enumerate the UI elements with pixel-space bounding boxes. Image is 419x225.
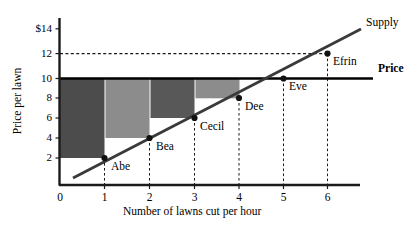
y-tick-label-6: 6: [18, 111, 52, 123]
point-label-eve: Eve: [289, 80, 307, 92]
x-tick-label-1: 1: [95, 191, 115, 203]
data-point-bea: [146, 135, 152, 141]
y-axis-title: Price per lawn: [11, 61, 23, 141]
point-label-cecil: Cecil: [200, 120, 224, 132]
x-axis-title: Number of lawns cut per hour: [123, 205, 261, 217]
x-tick-label-0: 0: [50, 191, 70, 203]
x-tick-label-2: 2: [140, 191, 160, 203]
data-point-efrin: [324, 51, 330, 57]
point-label-efrin: Efrin: [333, 55, 357, 67]
y-tick-label-10: 10: [18, 72, 52, 84]
surplus-bars-group: [60, 79, 240, 159]
data-point-dee: [236, 95, 242, 101]
surplus-bar-abe: [60, 79, 105, 159]
point-label-dee: Dee: [245, 100, 264, 112]
x-tick-label-6: 6: [318, 191, 338, 203]
data-point-cecil: [191, 115, 197, 121]
y-tick-label-2: 2: [18, 151, 52, 163]
y-tick-label-14: $14: [18, 22, 52, 34]
point-label-abe: Abe: [111, 160, 130, 172]
y-tick-label-4: 4: [18, 131, 52, 143]
surplus-bar-cecil: [151, 79, 195, 119]
x-tick-label-4: 4: [229, 191, 249, 203]
y-tick-label-8: 8: [18, 91, 52, 103]
data-point-abe: [101, 155, 107, 161]
price-line-label: Price: [378, 62, 404, 74]
chart-figure: $14 12 10 8 6 4 2 0 1 2 3 4 5 6 Abe Bea …: [0, 0, 419, 225]
supply-curve-label: Supply: [366, 16, 399, 28]
surplus-bar-bea: [106, 79, 150, 139]
x-tick-label-3: 3: [185, 191, 205, 203]
point-label-bea: Bea: [156, 140, 174, 152]
data-point-eve: [280, 75, 286, 81]
y-tick-label-12: 12: [18, 47, 52, 59]
x-tick-label-5: 5: [274, 191, 294, 203]
